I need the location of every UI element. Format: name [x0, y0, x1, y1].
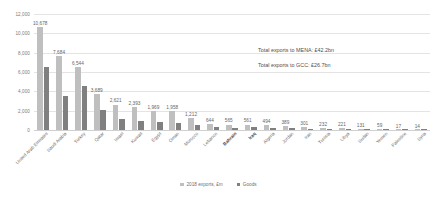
bar-goods[interactable]	[119, 119, 125, 130]
x-axis-label-kuwait: Kuwait	[130, 131, 143, 144]
bar-goods[interactable]	[421, 129, 427, 130]
x-axis-label-palestine: Palestine	[390, 131, 407, 148]
bar-group	[94, 14, 106, 130]
bar-group	[169, 14, 181, 130]
x-axis-label-sudan: Sudan	[357, 131, 370, 144]
annotation-total-mena: Total exports to MENA: £42.2bn	[258, 47, 334, 53]
bar-exports[interactable]	[37, 27, 43, 130]
bar-exports[interactable]	[188, 118, 194, 130]
x-axis-label-jordan: Jordan	[281, 131, 294, 144]
x-axis-label-iraq: Iraq	[247, 131, 257, 141]
bar-goods[interactable]	[100, 110, 106, 130]
bar-value-label: 2,621	[110, 98, 122, 103]
bar-value-label: 389	[281, 120, 289, 125]
bar-goods[interactable]	[195, 125, 201, 130]
bar-group	[132, 14, 144, 130]
bar-exports[interactable]	[415, 129, 421, 130]
x-axis-label-united-arab-emirates: United Arab Emirates	[15, 131, 49, 165]
bar-value-label: 561	[244, 118, 252, 123]
bar-exports[interactable]	[94, 94, 100, 130]
bar-exports[interactable]	[207, 124, 213, 130]
bar-exports[interactable]	[226, 125, 232, 130]
bar-group	[37, 14, 49, 130]
bar-exports[interactable]	[283, 126, 289, 130]
x-axis-label-oman: Oman	[168, 131, 180, 143]
bar-group	[339, 14, 351, 130]
bar-exports[interactable]	[396, 129, 402, 130]
bar-exports[interactable]	[339, 128, 345, 130]
x-axis-label-qatar: Qatar	[93, 131, 105, 143]
bar-exports[interactable]	[113, 105, 119, 130]
bar-value-label: 1,969	[147, 105, 159, 110]
bar-value-label: 221	[338, 122, 346, 127]
bar-exports[interactable]	[169, 111, 175, 130]
bar-goods[interactable]	[251, 127, 257, 130]
plot-area: 10,6787,6846,5443,6892,6212,3931,9691,95…	[34, 14, 430, 130]
x-axis-label-israel: Israel	[113, 131, 124, 142]
x-axis-label-syria: Syria	[416, 131, 427, 142]
bar-value-label: 1,212	[185, 112, 197, 117]
chart-legend: 2018 exports, £mGoods	[0, 182, 437, 187]
bar-group	[320, 14, 332, 130]
x-axis-label-lebanon: Lebanon	[202, 131, 218, 147]
bar-value-label: 3,689	[91, 88, 103, 93]
bar-goods[interactable]	[232, 128, 238, 130]
bar-value-label: 59	[377, 123, 382, 128]
bar-value-label: 232	[319, 122, 327, 127]
bar-group	[377, 14, 389, 130]
x-axis-category-labels: United Arab EmiratesSaudi ArabiaTurkeyQa…	[34, 131, 430, 177]
y-axis-labels: 12,00010,0008,0006,0004,0002,0000	[0, 14, 32, 130]
bar-exports[interactable]	[151, 111, 157, 130]
bar-goods[interactable]	[157, 122, 163, 130]
bar-exports[interactable]	[301, 127, 307, 130]
bar-value-label: 7,684	[53, 50, 65, 55]
y-axis-tick-label: 8,000	[18, 50, 30, 55]
legend-label: 2018 exports, £m	[186, 182, 222, 187]
bar-value-label: 6,544	[72, 61, 84, 66]
bar-exports[interactable]	[377, 129, 383, 130]
bar-exports[interactable]	[264, 125, 270, 130]
bar-value-label: 131	[357, 123, 365, 128]
bar-exports[interactable]	[56, 56, 62, 130]
legend-item[interactable]: Goods	[237, 182, 257, 187]
bar-value-label: 2,393	[129, 101, 141, 106]
bar-value-label: 1,958	[166, 105, 178, 110]
bar-group	[283, 14, 295, 130]
bar-group	[207, 14, 219, 130]
bar-goods[interactable]	[63, 96, 69, 130]
x-axis-label-egypt: Egypt	[150, 131, 162, 143]
bar-group	[75, 14, 87, 130]
legend-label: Goods	[243, 182, 257, 187]
bar-group	[358, 14, 370, 130]
bar-exports[interactable]	[132, 107, 138, 130]
bar-group	[113, 14, 125, 130]
bar-goods[interactable]	[138, 121, 144, 130]
x-axis-label-bahrain: Bahrain	[222, 131, 238, 147]
bar-goods[interactable]	[289, 128, 295, 130]
bar-goods[interactable]	[270, 128, 276, 130]
bar-group	[226, 14, 238, 130]
bar-exports[interactable]	[245, 125, 251, 130]
legend-item[interactable]: 2018 exports, £m	[180, 182, 222, 187]
bar-exports[interactable]	[358, 129, 364, 130]
bar-value-label: 17	[396, 124, 401, 129]
bar-goods[interactable]	[383, 129, 389, 130]
bar-exports[interactable]	[320, 128, 326, 130]
bar-group	[245, 14, 257, 130]
bar-goods[interactable]	[402, 129, 408, 130]
y-axis-tick-label: 12,000	[15, 12, 30, 17]
y-axis-tick-label: 4,000	[18, 89, 30, 94]
chart-container: 12,00010,0008,0006,0004,0002,0000 10,678…	[0, 0, 437, 198]
bar-group	[264, 14, 276, 130]
y-axis-tick-label: 6,000	[18, 70, 30, 75]
bar-group	[151, 14, 163, 130]
bar-group	[415, 14, 427, 130]
bar-group	[301, 14, 313, 130]
bar-goods[interactable]	[176, 123, 182, 130]
bar-value-label: 10,678	[33, 21, 48, 26]
y-axis-tick-label: 10,000	[15, 31, 30, 36]
bar-goods[interactable]	[82, 86, 88, 130]
bar-goods[interactable]	[364, 129, 370, 130]
bar-goods[interactable]	[44, 67, 50, 130]
bar-exports[interactable]	[75, 67, 81, 130]
